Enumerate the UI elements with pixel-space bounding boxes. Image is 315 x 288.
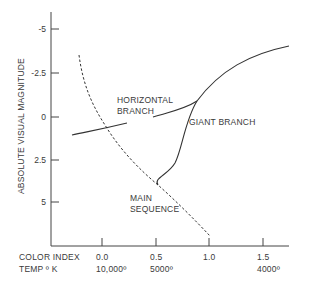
y-tick-label: -5 <box>22 24 46 34</box>
y-ticks <box>51 29 59 202</box>
giant-branch-curve <box>157 46 289 185</box>
temp-tick: 4000º <box>257 264 280 274</box>
color-index-tick: 1.5 <box>257 252 269 262</box>
horizontal-branch-curve <box>72 123 127 135</box>
temp-tick: 5000º <box>150 264 173 274</box>
horizontal-branch-label-line1: HORIZONTAL <box>117 95 173 105</box>
x-ticks <box>102 238 263 246</box>
y-tick-label: -2.5 <box>22 68 46 78</box>
y-axis-label: ABSOLUTE VISUAL MAGNITUDE <box>16 58 26 194</box>
hr-diagram-plot <box>0 0 315 288</box>
color-index-tick: 0.0 <box>96 252 108 262</box>
color-index-tick: 0.5 <box>150 252 162 262</box>
horizontal-branch-label-line2: BRANCH <box>117 106 154 116</box>
y-tick-label: 2.5 <box>22 155 46 165</box>
giant-branch-label: GIANT BRANCH <box>189 117 255 127</box>
y-tick-label: 0 <box>22 112 46 122</box>
main-sequence-label-line2: SEQUENCE <box>130 204 179 214</box>
y-tick-label: 5 <box>22 197 46 207</box>
temp-label: TEMP º K <box>19 264 58 274</box>
main-sequence-label-line1: MAIN <box>130 193 152 203</box>
temp-tick: 10,000º <box>96 264 127 274</box>
color-index-tick: 1.0 <box>203 252 215 262</box>
color-index-label: COLOR INDEX <box>19 252 80 262</box>
